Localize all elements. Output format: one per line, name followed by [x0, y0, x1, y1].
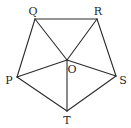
- edge-pq: [17, 19, 35, 77]
- edge-or: [67, 19, 97, 60]
- vertex-label-q: Q: [28, 5, 37, 18]
- edge-rs: [97, 19, 116, 76]
- edge-st: [67, 76, 116, 111]
- vertex-label-r: R: [94, 5, 103, 18]
- edge-oq: [35, 19, 67, 60]
- pentagon-diagram: Q R S T P O: [0, 0, 131, 128]
- labels-group: Q R S T P O: [5, 5, 126, 127]
- vertex-label-s: S: [119, 74, 127, 87]
- vertex-label-t: T: [63, 114, 71, 127]
- center-label-o: O: [67, 63, 76, 76]
- edge-op: [17, 60, 67, 77]
- vertex-label-p: P: [5, 74, 13, 87]
- edge-tp: [17, 77, 67, 111]
